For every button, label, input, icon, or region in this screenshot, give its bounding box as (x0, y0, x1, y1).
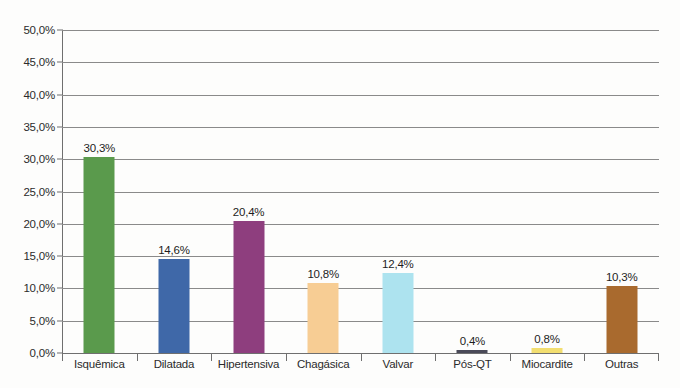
x-axis-category-label: Dilatada (137, 358, 212, 370)
x-axis-category-label: Isquêmica (62, 358, 137, 370)
x-axis-category-label: Chagásica (286, 358, 361, 370)
bar-value-label: 0,4% (460, 335, 485, 347)
y-axis-tick-label: 50,0% (0, 24, 55, 36)
bar-group: 10,8% (286, 30, 361, 353)
y-axis-tick-label: 45,0% (0, 56, 55, 68)
x-axis-tick-mark (137, 354, 138, 361)
x-axis-tick-mark (286, 354, 287, 361)
bar-group: 0,8% (510, 30, 585, 353)
bar-group: 14,6% (137, 30, 212, 353)
x-axis-tick-mark (435, 354, 436, 361)
bar (84, 157, 115, 353)
x-axis-category-label: Pós-QT (435, 358, 510, 370)
bar-group: 12,4% (361, 30, 436, 353)
x-axis-category-label: Valvar (361, 358, 436, 370)
x-axis-category-label: Outras (584, 358, 659, 370)
y-axis-tick-label: 30,0% (0, 153, 55, 165)
bar-group: 10,3% (584, 30, 659, 353)
y-axis-tick-label: 0,0% (0, 347, 55, 359)
x-axis-tick-mark (658, 354, 659, 361)
bar-series: 30,3%14,6%20,4%10,8%12,4%0,4%0,8%10,3% (62, 30, 659, 353)
y-axis-tick-label: 35,0% (0, 121, 55, 133)
bar-chart: 0,0%5,0%10,0%15,0%20,0%25,0%30,0%35,0%40… (0, 0, 680, 388)
x-axis-category-label: Hipertensiva (211, 358, 286, 370)
bar-group: 0,4% (435, 30, 510, 353)
x-axis-tick-mark (361, 354, 362, 361)
bar-value-label: 10,8% (307, 268, 339, 280)
bar-group: 20,4% (211, 30, 286, 353)
bar (606, 286, 637, 353)
y-axis-tick-label: 25,0% (0, 186, 55, 198)
bar (308, 283, 339, 353)
bar-value-label: 20,4% (233, 206, 265, 218)
y-axis-tick-label: 10,0% (0, 282, 55, 294)
bar-value-label: 14,6% (158, 244, 190, 256)
plot-area: 30,3%14,6%20,4%10,8%12,4%0,4%0,8%10,3% (62, 30, 659, 353)
bar (158, 259, 189, 353)
x-axis-tick-mark (211, 354, 212, 361)
bar-value-label: 10,3% (606, 271, 638, 283)
x-axis-tick-mark (584, 354, 585, 361)
y-axis-labels: 0,0%5,0%10,0%15,0%20,0%25,0%30,0%35,0%40… (0, 0, 55, 388)
x-axis-tick-mark (510, 354, 511, 361)
bar-value-label: 0,8% (534, 333, 559, 345)
x-axis-tick-mark (62, 354, 63, 361)
bar (233, 221, 264, 353)
bar-value-label: 30,3% (84, 142, 116, 154)
x-axis-category-label: Miocardite (510, 358, 585, 370)
bar (382, 273, 413, 353)
y-axis-tick-label: 20,0% (0, 218, 55, 230)
y-axis-tick-label: 40,0% (0, 89, 55, 101)
y-axis-tick-label: 15,0% (0, 250, 55, 262)
bar-value-label: 12,4% (382, 258, 414, 270)
bar-group: 30,3% (62, 30, 137, 353)
x-axis-labels: IsquêmicaDilatadaHipertensivaChagásicaVa… (62, 354, 659, 388)
y-axis-tick-label: 5,0% (0, 315, 55, 327)
